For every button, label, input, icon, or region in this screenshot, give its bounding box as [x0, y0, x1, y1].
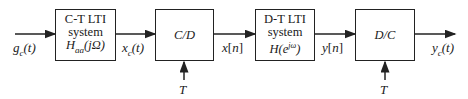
- output-signal-label: yc(t): [432, 40, 454, 58]
- cd-sampling-period-label: T: [179, 82, 186, 98]
- block-title: D/C: [375, 29, 396, 42]
- dt-lti-system-block: D-T LTI system H(ejω): [255, 9, 315, 61]
- cd-converter-block: C/D: [155, 9, 214, 61]
- yn-signal-label: y[n]: [322, 40, 343, 56]
- haa-transfer-function: Haa(jΩ): [66, 39, 105, 57]
- xn-signal-label: x[n]: [222, 40, 243, 56]
- h-transfer-function: H(ejω): [270, 39, 301, 56]
- block-title: C/D: [174, 29, 195, 42]
- block-subtitle: system: [268, 26, 303, 39]
- dc-sampling-period-label: T: [380, 82, 387, 98]
- dc-converter-block: D/C: [355, 9, 415, 61]
- ct-lti-system-block: C-T LTI system Haa(jΩ): [55, 9, 116, 61]
- input-signal-label: gc(t): [13, 40, 36, 58]
- xc-signal-label: xc(t): [122, 40, 144, 58]
